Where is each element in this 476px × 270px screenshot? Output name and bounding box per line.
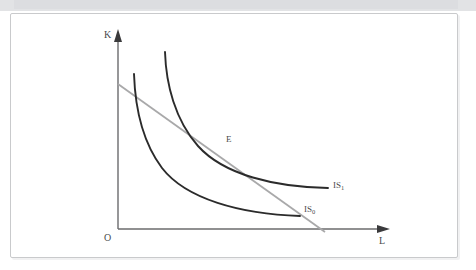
isoquant-is1-label-subscript: 1 (341, 184, 344, 191)
isoquant-is0-label-subscript: 0 (312, 208, 315, 215)
isoquant-chart (0, 0, 476, 270)
isoquant-curve-is0 (134, 74, 300, 216)
equilibrium-point-label: E (226, 134, 232, 144)
isocost-line (118, 84, 325, 232)
y-axis-label: K (104, 29, 111, 40)
page-root: K L O E IS1 IS0 (0, 0, 476, 270)
isoquant-curve-is1 (165, 52, 328, 188)
y-axis-arrow-icon (114, 29, 122, 42)
isoquant-is0-label-text: IS (304, 204, 312, 214)
isoquant-is1-label: IS1 (333, 180, 344, 190)
isoquant-is1-label-text: IS (333, 180, 341, 190)
x-axis-arrow-icon (377, 225, 390, 233)
origin-label: O (104, 232, 111, 243)
x-axis-label: L (379, 235, 385, 246)
isoquant-is0-label: IS0 (304, 204, 315, 214)
